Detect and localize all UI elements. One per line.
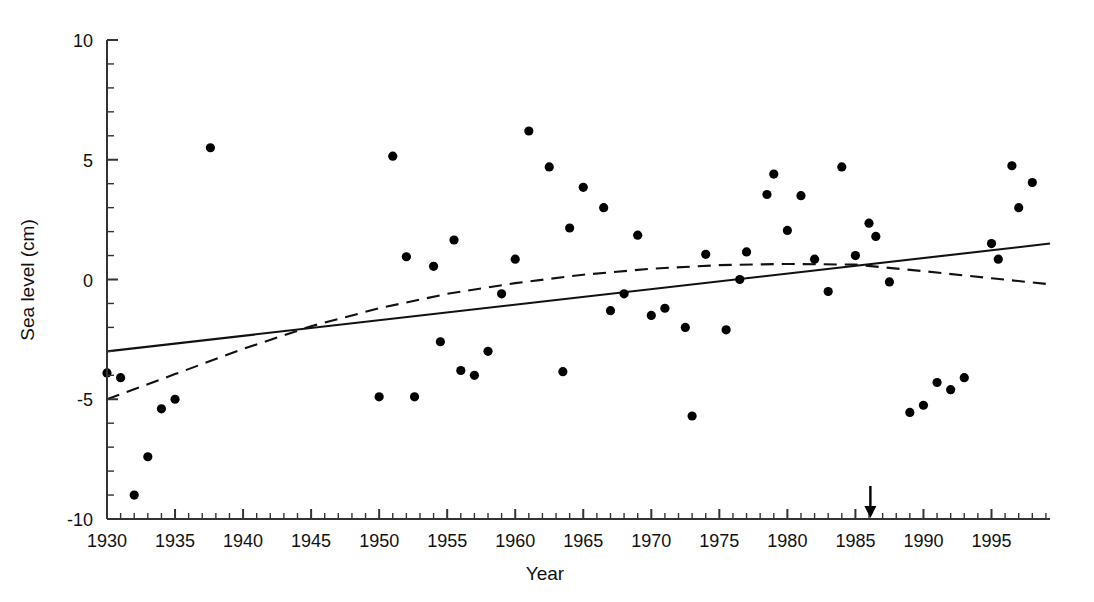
x-tick-label: 1970: [631, 531, 671, 551]
data-point: [449, 235, 458, 244]
data-point: [960, 373, 969, 382]
data-point: [402, 252, 411, 261]
data-point: [762, 190, 771, 199]
data-point: [170, 395, 179, 404]
data-point: [545, 162, 554, 171]
data-point: [143, 452, 152, 461]
smoothed-trend-line: [107, 264, 1050, 399]
x-tick-label: 1985: [835, 531, 875, 551]
data-point: [619, 289, 628, 298]
data-point: [919, 401, 928, 410]
data-point: [783, 226, 792, 235]
x-tick-label: 1955: [427, 531, 467, 551]
data-point: [579, 183, 588, 192]
data-point: [1028, 178, 1037, 187]
data-point: [483, 347, 492, 356]
linear-trend-line: [107, 244, 1050, 352]
arrow-head: [864, 506, 876, 518]
axis-labels-layer: Year Sea level (cm): [17, 219, 565, 584]
data-point: [660, 304, 669, 313]
data-point: [905, 408, 914, 417]
data-point: [157, 404, 166, 413]
x-tick-label: 1945: [291, 531, 331, 551]
x-tick-label: 1950: [359, 531, 399, 551]
y-tick-label: 0: [83, 271, 93, 291]
x-tick-label: 1995: [971, 531, 1011, 551]
data-point: [994, 255, 1003, 264]
data-point: [388, 152, 397, 161]
data-point: [497, 289, 506, 298]
data-point: [932, 378, 941, 387]
x-axis-title: Year: [526, 563, 565, 584]
data-point: [688, 411, 697, 420]
data-point: [824, 287, 833, 296]
y-tick-label: 10: [73, 31, 93, 51]
data-point: [470, 371, 479, 380]
x-tick-label: 1975: [699, 531, 739, 551]
data-point: [837, 162, 846, 171]
data-point: [742, 247, 751, 256]
data-point: [130, 490, 139, 499]
data-point: [456, 366, 465, 375]
chart-figure: 1930193519401945195019551960196519701975…: [0, 0, 1094, 602]
y-tick-label: 5: [83, 151, 93, 171]
data-point: [429, 262, 438, 271]
y-tick-label: -10: [67, 510, 93, 530]
trend-lines-layer: [107, 244, 1050, 400]
data-point: [375, 392, 384, 401]
x-tick-label: 1965: [563, 531, 603, 551]
data-point: [599, 203, 608, 212]
data-point: [524, 126, 533, 135]
annotations-layer: [864, 486, 876, 518]
data-point: [769, 170, 778, 179]
x-tick-label: 1960: [495, 531, 535, 551]
axes-layer: 1930193519401945195019551960196519701975…: [67, 31, 1050, 551]
year-marker-arrow: [864, 486, 876, 518]
data-point: [735, 275, 744, 284]
data-point: [565, 223, 574, 232]
data-point: [647, 311, 656, 320]
sea-level-scatter-chart: 1930193519401945195019551960196519701975…: [0, 0, 1094, 602]
y-axis-title: Sea level (cm): [17, 219, 38, 340]
data-point: [410, 392, 419, 401]
data-point: [116, 373, 125, 382]
x-tick-label: 1990: [903, 531, 943, 551]
x-tick-label: 1980: [767, 531, 807, 551]
y-tick-label: -5: [77, 390, 93, 410]
data-point: [1007, 161, 1016, 170]
data-point: [810, 255, 819, 264]
data-point: [681, 323, 690, 332]
data-point: [436, 337, 445, 346]
data-point: [633, 231, 642, 240]
data-point: [885, 277, 894, 286]
x-tick-label: 1930: [87, 531, 127, 551]
data-point: [511, 255, 520, 264]
x-tick-label: 1940: [223, 531, 263, 551]
data-point: [606, 306, 615, 315]
data-point: [1014, 203, 1023, 212]
data-point: [796, 191, 805, 200]
data-point: [701, 250, 710, 259]
data-points-layer: [102, 126, 1037, 499]
data-point: [864, 219, 873, 228]
data-point: [206, 143, 215, 152]
data-point: [946, 385, 955, 394]
x-tick-label: 1935: [155, 531, 195, 551]
data-point: [871, 232, 880, 241]
data-point: [722, 325, 731, 334]
data-point: [558, 367, 567, 376]
data-point: [987, 239, 996, 248]
data-point: [851, 251, 860, 260]
